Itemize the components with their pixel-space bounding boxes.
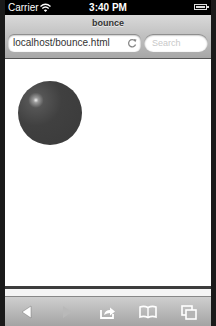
content-gap (5, 289, 211, 296)
status-bar: Carrier 3:40 PM (5, 0, 211, 15)
search-input[interactable]: Search (144, 34, 208, 52)
bouncing-ball (18, 81, 82, 145)
tabs-icon[interactable] (179, 303, 199, 321)
web-content (5, 59, 211, 287)
screen: Carrier 3:40 PM bounce localhost/bounce.… (5, 0, 211, 326)
browser-toolbar (5, 296, 211, 326)
browser-nav-bar: bounce localhost/bounce.html Search (5, 15, 211, 59)
battery-icon (194, 4, 207, 10)
clock: 3:40 PM (5, 0, 211, 15)
url-field[interactable]: localhost/bounce.html (8, 34, 141, 52)
back-arrow-icon[interactable] (17, 303, 37, 321)
bookmarks-icon[interactable] (138, 303, 158, 321)
page-title: bounce (5, 18, 211, 28)
share-icon[interactable] (98, 303, 118, 321)
forward-arrow-icon[interactable] (57, 303, 77, 321)
reload-icon[interactable] (126, 35, 138, 51)
